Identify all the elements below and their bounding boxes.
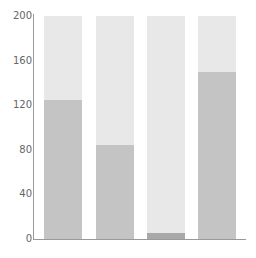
bar-2 xyxy=(96,16,134,239)
y-axis-line xyxy=(33,14,34,240)
bar-chart: 04080120160200 xyxy=(0,0,256,258)
bar-value xyxy=(198,72,236,239)
y-tick-label: 160 xyxy=(2,56,32,66)
y-tick-label: 80 xyxy=(2,145,32,155)
y-tick-label: 120 xyxy=(2,100,32,110)
bar-3 xyxy=(147,16,185,239)
bar-value xyxy=(44,100,82,239)
y-tick-label: 0 xyxy=(2,234,32,244)
y-tick-label: 40 xyxy=(2,189,32,199)
y-tick-label: 200 xyxy=(2,11,32,21)
bar-value xyxy=(147,233,185,239)
bar-4 xyxy=(198,16,236,239)
x-axis-line xyxy=(33,239,246,240)
bar-1 xyxy=(44,16,82,239)
bar-value xyxy=(96,145,134,239)
bar-capacity xyxy=(147,16,185,239)
